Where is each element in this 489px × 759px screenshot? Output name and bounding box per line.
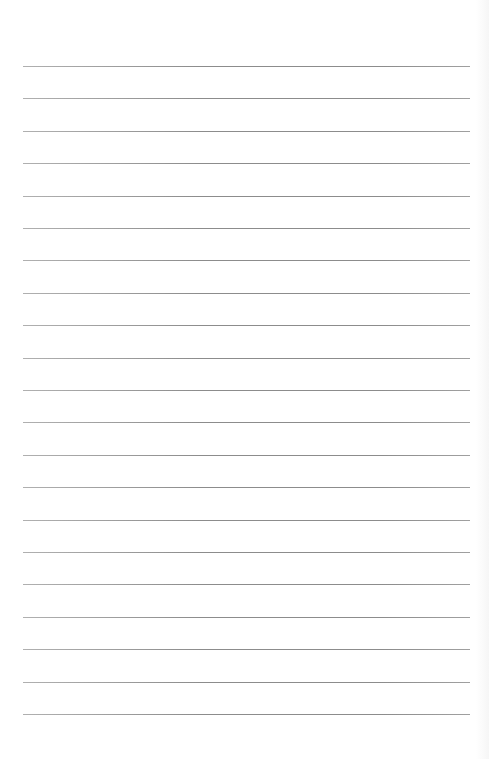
ruled-line bbox=[23, 422, 470, 423]
ruled-line bbox=[23, 260, 470, 261]
ruled-line bbox=[23, 584, 470, 585]
ruled-line bbox=[23, 487, 470, 488]
ruled-line bbox=[23, 649, 470, 650]
ruled-line bbox=[23, 552, 470, 553]
ruled-line bbox=[23, 455, 470, 456]
ruled-line bbox=[23, 390, 470, 391]
ruled-line bbox=[23, 520, 470, 521]
ruled-line bbox=[23, 66, 470, 67]
ruled-line bbox=[23, 98, 470, 99]
ruled-line bbox=[23, 325, 470, 326]
page-edge-shadow bbox=[476, 0, 489, 759]
ruled-line bbox=[23, 617, 470, 618]
ruled-line bbox=[23, 196, 470, 197]
ruled-line bbox=[23, 293, 470, 294]
ruled-line bbox=[23, 358, 470, 359]
ruled-line bbox=[23, 682, 470, 683]
ruled-line bbox=[23, 131, 470, 132]
ruled-line bbox=[23, 163, 470, 164]
ruled-line bbox=[23, 714, 470, 715]
ruled-line bbox=[23, 228, 470, 229]
